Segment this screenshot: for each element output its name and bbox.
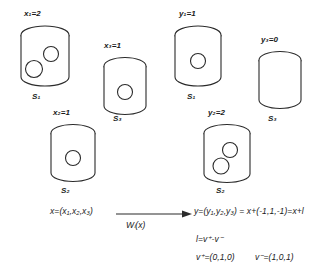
equation-output-vector: y=(y₁,y₂,y₃) = x+(-1,1,-1)=x+l	[194, 206, 304, 216]
equation-v-minus: v⁻=(1,0,1)	[255, 252, 294, 262]
container-left-s3[interactable]	[101, 56, 149, 118]
equation-l-definition: l=v⁺-v⁻	[196, 234, 223, 244]
container-label-right-s2-variable: y₂=2	[208, 108, 225, 117]
container-label-left-s3-variable: x₃=1	[104, 41, 121, 50]
container-label-right-s1-variable: y₁=1	[179, 9, 196, 18]
container-label-right-s3-variable: y₃=0	[261, 35, 278, 44]
container-name-right-s1: S₁	[187, 92, 195, 101]
container-name-left-s3: S₃	[113, 114, 122, 123]
container-name-right-s3: S₃	[268, 114, 277, 123]
container-left-s1[interactable]	[18, 24, 72, 90]
container-right-s3[interactable]	[256, 50, 304, 112]
diagram-canvas: x₁=2 S₁ x₃=1 S₃ x₂=1 S₂ y₁=1	[0, 0, 317, 280]
transform-function-label: Wₗ(x)	[126, 220, 145, 230]
container-right-s2[interactable]	[201, 123, 253, 187]
container-name-right-s2: S₂	[216, 186, 225, 195]
equation-v-plus: v⁺=(0,1,0)	[196, 252, 235, 262]
container-right-s1[interactable]	[172, 24, 224, 90]
container-left-s2[interactable]	[48, 123, 98, 185]
container-name-left-s1: S₁	[32, 92, 40, 101]
equation-input-vector: x=(x₁,x₂,x₃)	[50, 206, 93, 216]
container-label-left-s2-variable: x₂=1	[53, 108, 70, 117]
container-label-left-s1-variable: x₁=2	[24, 9, 41, 18]
container-name-left-s2: S₂	[61, 186, 70, 195]
